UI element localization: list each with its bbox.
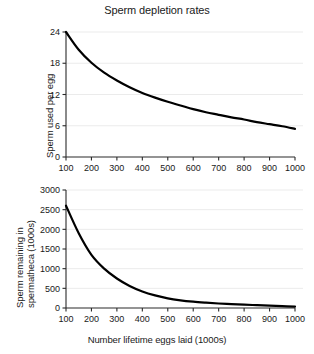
y-tick-label: 2000 (40, 225, 60, 235)
x-tick-label: 100 (58, 314, 73, 324)
data-line (66, 206, 295, 307)
x-tick-label: 100 (58, 163, 73, 173)
figure-canvas: Sperm depletion rates Sperm used per egg… (0, 0, 314, 354)
x-tick-label: 300 (109, 163, 124, 173)
x-tick-label: 700 (211, 314, 226, 324)
y-tick-label: 6 (55, 121, 60, 131)
y-tick-label: 12 (50, 90, 60, 100)
y-tick-label: 24 (50, 27, 60, 37)
x-tick-label: 1000 (285, 314, 305, 324)
plot-area-top: 061218241002003004005006007008009001000 (0, 18, 314, 176)
x-tick-label: 600 (186, 314, 201, 324)
y-tick-label: 1000 (40, 264, 60, 274)
x-tick-label: 400 (135, 314, 150, 324)
x-tick-label: 700 (211, 163, 226, 173)
x-tick-label: 200 (84, 314, 99, 324)
y-tick-label: 18 (50, 58, 60, 68)
x-tick-label: 500 (160, 314, 175, 324)
sperm-used-per-egg-panel: Sperm used per egg 061218241002003004005… (0, 18, 314, 176)
x-tick-label: 1000 (285, 163, 305, 173)
plot-area-bottom: 0500100015002000250030001002003004005006… (0, 176, 314, 354)
x-tick-label: 600 (186, 163, 201, 173)
x-tick-label: 800 (237, 314, 252, 324)
x-tick-label: 400 (135, 163, 150, 173)
x-tick-label: 900 (262, 163, 277, 173)
y-tick-label: 500 (45, 284, 60, 294)
y-tick-label: 3000 (40, 185, 60, 195)
x-tick-label: 200 (84, 163, 99, 173)
y-tick-label: 0 (55, 152, 60, 162)
x-axis-label: Number lifetime eggs laid (1000s) (0, 334, 314, 345)
chart-title: Sperm depletion rates (0, 4, 314, 16)
data-line (66, 32, 295, 129)
x-tick-label: 300 (109, 314, 124, 324)
x-tick-label: 500 (160, 163, 175, 173)
sperm-remaining-panel: Sperm remaining in spermatheca (1000s) 0… (0, 176, 314, 354)
x-tick-label: 900 (262, 314, 277, 324)
y-tick-label: 0 (55, 303, 60, 313)
y-tick-label: 1500 (40, 244, 60, 254)
y-tick-label: 2500 (40, 205, 60, 215)
x-tick-label: 800 (237, 163, 252, 173)
